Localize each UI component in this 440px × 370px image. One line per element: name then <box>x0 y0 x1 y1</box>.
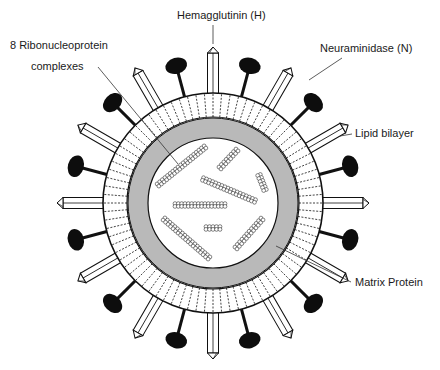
label-lipid-bilayer: Lipid bilayer <box>355 127 414 140</box>
ha-divider <box>266 73 288 111</box>
hemagglutinin-spike <box>319 198 369 209</box>
label-neuraminidase: Neuraminidase (N) <box>320 42 412 55</box>
rnp-complex <box>204 225 222 232</box>
influenza-virion-diagram <box>0 0 440 370</box>
rnp-bead <box>253 200 257 204</box>
rnp-complex <box>173 202 227 209</box>
na-head <box>65 227 86 252</box>
hemagglutinin-spike <box>208 47 219 97</box>
na-head <box>164 55 189 76</box>
ha-tip <box>208 353 219 359</box>
rnp-bead <box>261 218 265 222</box>
na-head <box>340 227 361 252</box>
na-head <box>237 330 262 351</box>
na-head <box>65 154 86 179</box>
ha-tip <box>363 198 369 209</box>
na-head <box>340 154 361 179</box>
na-head <box>164 330 189 351</box>
rnp-bead <box>218 228 222 232</box>
ha-tip <box>208 47 219 53</box>
ha-divider <box>305 128 343 150</box>
label-hemagglutinin: Hemagglutinin (H) <box>177 9 266 22</box>
na-stalk <box>115 105 138 128</box>
label-rnp-line2: complexes <box>31 60 84 73</box>
leader-neuraminidase <box>309 58 342 80</box>
ha-divider <box>83 256 121 278</box>
ha-tip <box>57 198 63 209</box>
ha-divider <box>138 73 160 111</box>
rnp-bead <box>262 189 266 193</box>
ha-divider <box>83 128 121 150</box>
ha-divider <box>266 295 288 333</box>
label-matrix-protein: Matrix Protein <box>355 276 423 289</box>
na-head <box>237 55 262 76</box>
rnp-bead <box>223 205 227 209</box>
hemagglutinin-spike <box>57 198 107 209</box>
rnp-bead <box>236 149 240 153</box>
rnp-bead <box>204 146 208 150</box>
ha-divider <box>138 295 160 333</box>
rnp-bead <box>206 257 210 261</box>
ha-divider <box>305 256 343 278</box>
label-rnp-line1: 8 Ribonucleoprotein <box>10 39 108 52</box>
hemagglutinin-spike <box>208 309 219 359</box>
